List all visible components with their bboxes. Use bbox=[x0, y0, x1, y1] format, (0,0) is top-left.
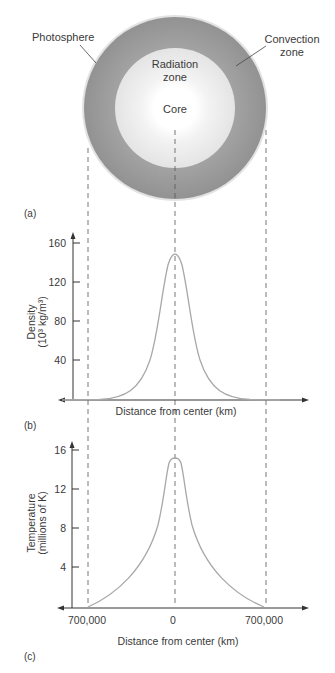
temperature-xtick-left: 700,000 bbox=[68, 614, 106, 626]
density-tick-160: 160 bbox=[48, 237, 66, 249]
guide-lines bbox=[88, 130, 266, 605]
temperature-x-axis-right-arrow-icon bbox=[302, 606, 309, 611]
density-x-axis-right-arrow-icon bbox=[302, 398, 309, 403]
density-tick-120: 120 bbox=[48, 276, 66, 288]
panel-b-label: (b) bbox=[24, 420, 36, 431]
density-y-axis-arrow-icon bbox=[71, 232, 76, 239]
convection-zone-label-line1: Convection bbox=[264, 33, 319, 45]
density-x-label: Distance from center (km) bbox=[116, 405, 237, 417]
core-label: Core bbox=[163, 103, 187, 115]
photosphere-label: Photosphere bbox=[32, 31, 94, 43]
radiation-zone-label-line1: Radiation bbox=[152, 58, 198, 70]
sun-diagram: Photosphere Convection zone Radiation zo… bbox=[24, 15, 320, 219]
temperature-x-axis-left-arrow-icon bbox=[57, 606, 64, 611]
temperature-tick-12: 12 bbox=[54, 483, 66, 495]
temperature-ticks bbox=[72, 450, 79, 567]
density-ticks bbox=[73, 243, 80, 360]
density-curve bbox=[62, 254, 280, 400]
density-tick-80: 80 bbox=[54, 315, 66, 327]
sun-structure-figure: Photosphere Convection zone Radiation zo… bbox=[0, 0, 335, 673]
temperature-tick-16: 16 bbox=[54, 444, 66, 456]
density-y-label-line2: (10³ kg/m³) bbox=[36, 296, 48, 347]
panel-c-label: (c) bbox=[24, 651, 36, 662]
panel-a-label: (a) bbox=[24, 208, 36, 219]
temperature-tick-4: 4 bbox=[60, 561, 66, 573]
temperature-y-axis-arrow-icon bbox=[70, 441, 75, 448]
temperature-xtick-center: 0 bbox=[170, 614, 176, 626]
temperature-y-label-line2: (millions of K) bbox=[36, 491, 48, 555]
radiation-zone-label-line2: zone bbox=[163, 71, 187, 83]
temperature-xtick-right: 700,000 bbox=[245, 614, 283, 626]
convection-zone-label-line2: zone bbox=[280, 46, 304, 58]
temperature-tick-8: 8 bbox=[60, 522, 66, 534]
temperature-x-label: Distance from center (km) bbox=[118, 635, 239, 647]
temperature-curve bbox=[88, 458, 264, 607]
density-tick-40: 40 bbox=[54, 354, 66, 366]
photosphere-leader-line bbox=[80, 45, 96, 63]
